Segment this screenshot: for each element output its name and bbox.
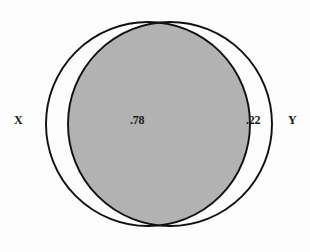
intersection-value-label: .78 bbox=[130, 114, 144, 126]
venn-diagram-canvas bbox=[0, 0, 310, 252]
set-y-label: Y bbox=[288, 114, 297, 126]
cropped-caption-sliver bbox=[6, 247, 226, 252]
set-x-label: X bbox=[14, 114, 23, 126]
venn-diagram-figure: X Y .78 .22 bbox=[0, 0, 310, 252]
y-only-value-label: .22 bbox=[246, 114, 260, 126]
